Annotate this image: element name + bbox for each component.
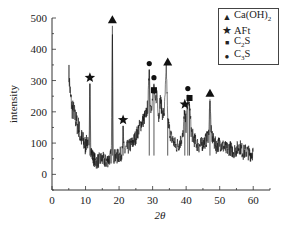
triangle-icon: [205, 89, 214, 97]
triangle-icon: [163, 58, 172, 66]
x-axis-label: 2θ: [155, 209, 167, 221]
square-icon: [187, 95, 193, 101]
square-icon: ■: [222, 37, 232, 50]
star-icon: [85, 72, 95, 82]
circle-icon: ●: [222, 50, 232, 63]
y-tick-label: 300: [31, 75, 48, 87]
star-icon: ★: [222, 24, 232, 37]
legend-label: C3S: [234, 47, 250, 65]
circle-icon: [147, 61, 152, 66]
x-tick-label: 30: [147, 194, 159, 206]
x-tick-label: 40: [181, 194, 193, 206]
legend: ▲ Ca(OH)2 ★ AFt ■ C2S ● C3S: [218, 8, 279, 65]
triangle-icon: ▲: [222, 11, 232, 24]
x-tick-label: 50: [214, 194, 226, 206]
circle-icon: [151, 75, 156, 80]
x-tick-label: 10: [80, 194, 92, 206]
square-icon: [151, 87, 157, 93]
triangle-icon: [108, 15, 117, 23]
x-tick-label: 60: [248, 194, 260, 206]
y-tick-label: 0: [42, 168, 48, 180]
y-tick-label: 200: [31, 106, 48, 118]
legend-item-c3s: ● C3S: [222, 50, 278, 63]
legend-item-caoh2: ▲ Ca(OH)2: [222, 11, 278, 24]
y-tick-label: 500: [31, 12, 48, 24]
y-tick-label: 100: [31, 137, 48, 149]
x-tick-label: 0: [49, 194, 55, 206]
y-tick-label: 400: [31, 43, 48, 55]
x-tick-label: 20: [114, 194, 126, 206]
circle-icon: [185, 86, 190, 91]
star-icon: [118, 114, 128, 124]
y-axis-label: intensity: [7, 85, 19, 123]
